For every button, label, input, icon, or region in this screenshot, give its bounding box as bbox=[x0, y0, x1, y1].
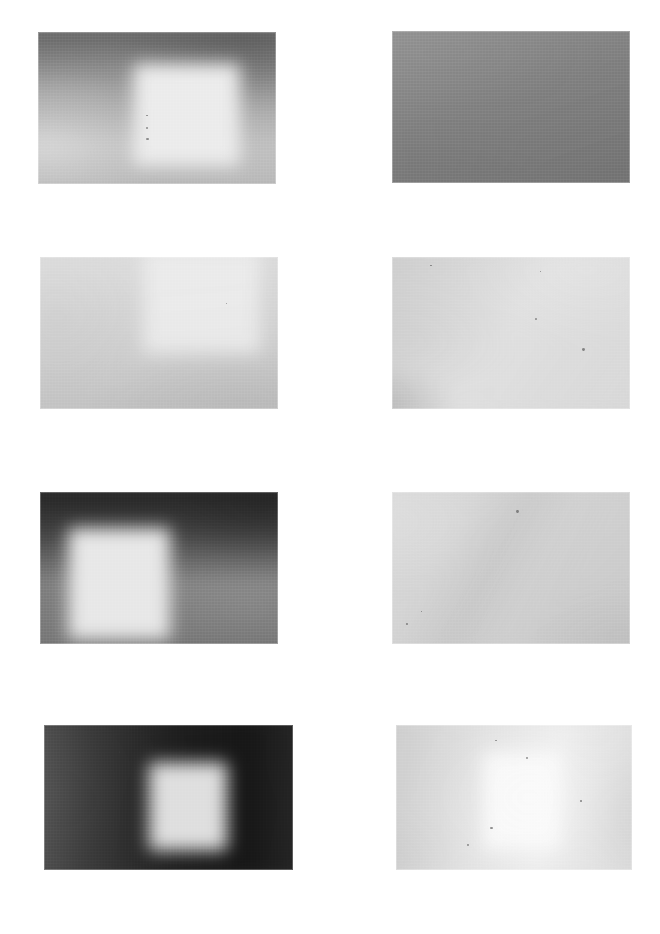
image-panel-row1-right[interactable] bbox=[392, 31, 630, 183]
panel-edge-highlight bbox=[38, 32, 276, 184]
panel-edge-highlight bbox=[392, 257, 630, 409]
image-panel-row2-right[interactable] bbox=[392, 257, 630, 409]
panel-edge-highlight bbox=[396, 725, 632, 870]
image-panel-row3-left[interactable] bbox=[40, 492, 278, 644]
image-panel-row4-left[interactable] bbox=[44, 725, 293, 870]
image-panel-row1-left[interactable] bbox=[38, 32, 276, 184]
image-panel-row4-right[interactable] bbox=[396, 725, 632, 870]
panel-edge-highlight bbox=[40, 492, 278, 644]
panel-edge-highlight bbox=[44, 725, 293, 870]
panel-edge-highlight bbox=[40, 257, 278, 409]
image-grid bbox=[0, 0, 660, 934]
image-panel-row3-right[interactable] bbox=[392, 492, 630, 644]
panel-edge-highlight bbox=[392, 492, 630, 644]
panel-edge-highlight bbox=[392, 31, 630, 183]
image-panel-row2-left[interactable] bbox=[40, 257, 278, 409]
